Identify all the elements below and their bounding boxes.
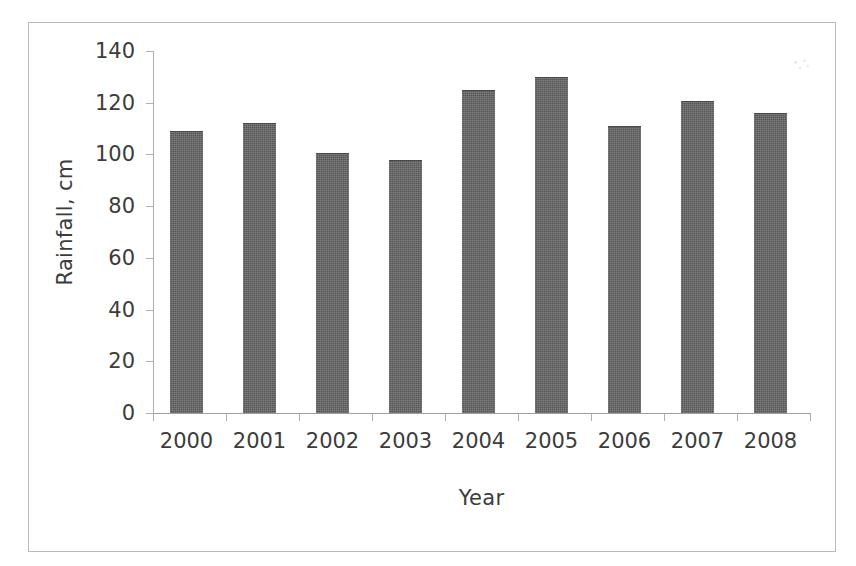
bar-2008	[754, 113, 787, 413]
bar-2005	[535, 77, 568, 413]
y-axis-tick: 140	[146, 51, 153, 52]
x-axis-tick-label-2006: 2006	[598, 429, 651, 453]
y-axis-tick-label: 100	[95, 142, 135, 166]
y-axis-tick: 20	[146, 361, 153, 362]
bar-2006	[608, 126, 641, 413]
x-axis-tick	[737, 413, 738, 421]
x-axis-line	[153, 413, 810, 414]
bar-2003	[389, 160, 422, 413]
y-axis-title: Rainfall, cm	[52, 32, 78, 412]
x-axis-tick	[591, 413, 592, 421]
y-axis-line	[153, 51, 154, 413]
y-axis-tick-label: 0	[122, 401, 135, 425]
y-axis-tick-label: 80	[108, 194, 135, 218]
x-axis-tick-label-2001: 2001	[233, 429, 286, 453]
y-axis-tick: 40	[146, 310, 153, 311]
x-axis-tick-label-2000: 2000	[160, 429, 213, 453]
y-axis-tick: 80	[146, 206, 153, 207]
x-axis-tick	[299, 413, 300, 421]
y-axis-tick: 60	[146, 258, 153, 259]
x-axis-title: Year	[153, 486, 810, 510]
x-axis-tick-label-2005: 2005	[525, 429, 578, 453]
bar-2004	[462, 90, 495, 413]
y-axis-tick-label: 60	[108, 246, 135, 270]
y-axis-tick: 100	[146, 154, 153, 155]
x-axis-tick	[518, 413, 519, 421]
bar-2000	[170, 131, 203, 413]
x-axis-tick-label-2007: 2007	[671, 429, 724, 453]
x-axis-tick	[226, 413, 227, 421]
x-axis-tick	[664, 413, 665, 421]
x-axis-tick-end	[810, 413, 811, 421]
x-axis-tick-label-2008: 2008	[744, 429, 797, 453]
y-axis-tick-label: 20	[108, 349, 135, 373]
bar-2007	[681, 101, 714, 413]
x-axis-tick	[372, 413, 373, 421]
y-axis-tick: 120	[146, 103, 153, 104]
bar-2002	[316, 153, 349, 413]
x-axis-tick	[153, 413, 154, 421]
x-axis-tick-label-2003: 2003	[379, 429, 432, 453]
x-axis-tick	[445, 413, 446, 421]
plot-area: 020406080100120140 200020012002200320042…	[153, 51, 810, 413]
x-axis-tick-label-2002: 2002	[306, 429, 359, 453]
x-axis-tick-label-2004: 2004	[452, 429, 505, 453]
y-axis-tick-label: 40	[108, 298, 135, 322]
y-axis-tick-label: 140	[95, 39, 135, 63]
y-axis-tick: 0	[146, 413, 153, 414]
y-axis-tick-label: 120	[95, 91, 135, 115]
bar-2001	[243, 123, 276, 413]
